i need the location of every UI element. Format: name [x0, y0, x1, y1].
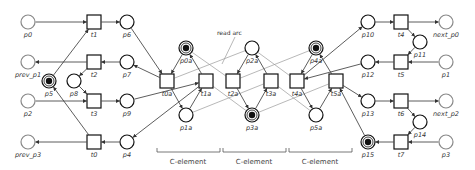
transition-box[interactable] [394, 94, 408, 108]
place-p1a[interactable]: p1a [179, 108, 193, 132]
transition-label: t5a [331, 90, 342, 98]
transition-box[interactable] [290, 74, 304, 88]
transition-box[interactable] [87, 94, 101, 108]
place-p8[interactable]: p8 [67, 74, 81, 98]
place-p6[interactable]: p6 [120, 15, 134, 39]
place-circle[interactable] [413, 35, 427, 49]
transition-box[interactable] [394, 55, 408, 69]
transition-label: t5 [398, 71, 405, 79]
place-label: p5 [44, 90, 53, 98]
place-prev_p3[interactable]: prev_p3 [14, 135, 41, 159]
transition-box[interactable] [394, 15, 408, 29]
place-p0[interactable]: p0 [21, 15, 35, 39]
place-label: p4 [122, 151, 131, 159]
token-icon [365, 139, 371, 145]
transition-box[interactable] [87, 55, 101, 69]
place-circle[interactable] [361, 94, 375, 108]
transition-box[interactable] [394, 135, 408, 149]
place-circle[interactable] [439, 55, 453, 69]
transition-t5[interactable]: t5 [394, 55, 408, 79]
transition-box[interactable] [87, 135, 101, 149]
place-circle[interactable] [439, 94, 453, 108]
place-p5[interactable]: p5 [42, 74, 56, 98]
place-next_p0[interactable]: next_p0 [433, 15, 459, 39]
place-next_p2[interactable]: next_p2 [433, 94, 459, 118]
place-prev_p1[interactable]: prev_p1 [14, 55, 41, 79]
place-p4[interactable]: p4 [120, 135, 134, 159]
place-circle[interactable] [21, 15, 35, 29]
place-circle[interactable] [21, 135, 35, 149]
place-label: p3 [441, 151, 450, 159]
transition-t4[interactable]: t4 [394, 15, 408, 39]
transition-t6[interactable]: t6 [394, 94, 408, 118]
transition-label: t0a [162, 90, 173, 98]
place-circle[interactable] [21, 94, 35, 108]
place-circle[interactable] [120, 55, 134, 69]
place-circle[interactable] [361, 55, 375, 69]
transition-t3a[interactable]: t3a [264, 74, 278, 98]
place-p4a[interactable]: p4a [309, 41, 323, 65]
place-p10[interactable]: p10 [361, 15, 375, 39]
transition-label: t0 [91, 151, 98, 159]
transition-label: t3a [266, 90, 277, 98]
transition-t0a[interactable]: t0a [160, 74, 174, 98]
place-p14[interactable]: p14 [413, 115, 427, 139]
read-arc-p0a-t2a [192, 52, 225, 75]
place-label: p6 [122, 31, 131, 39]
transition-t1a[interactable]: t1a [199, 74, 213, 98]
place-circle[interactable] [245, 41, 259, 55]
place-p9[interactable]: p9 [120, 94, 134, 118]
transition-t7[interactable]: t7 [394, 135, 408, 159]
transition-label: t7 [398, 151, 406, 159]
place-p12[interactable]: p12 [361, 55, 375, 79]
transition-box[interactable] [329, 74, 343, 88]
place-circle[interactable] [21, 55, 35, 69]
transition-label: t2 [91, 71, 98, 79]
transition-t1[interactable]: t1 [87, 15, 101, 39]
c-element-bracket-1 [157, 148, 220, 152]
place-p1[interactable]: p1 [439, 55, 453, 79]
c-element-label-3: C-element [302, 158, 339, 166]
place-circle[interactable] [439, 15, 453, 29]
place-circle[interactable] [120, 94, 134, 108]
place-circle[interactable] [361, 15, 375, 29]
transition-t0[interactable]: t0 [87, 135, 101, 159]
place-p3a[interactable]: p3a [245, 108, 259, 132]
place-p13[interactable]: p13 [361, 94, 375, 118]
transition-box[interactable] [160, 74, 174, 88]
place-p15[interactable]: p15 [361, 135, 375, 159]
transition-label: t4a [292, 90, 303, 98]
place-label: p2 [23, 110, 32, 118]
transition-box[interactable] [264, 74, 278, 88]
transition-t2a[interactable]: t2a [226, 74, 240, 98]
place-p3[interactable]: p3 [439, 135, 453, 159]
place-circle[interactable] [67, 74, 81, 88]
place-p11[interactable]: p11 [413, 35, 427, 59]
place-p2[interactable]: p2 [21, 94, 35, 118]
place-circle[interactable] [120, 15, 134, 29]
c-element-label-1: C-element [170, 158, 207, 166]
place-label: p9 [122, 110, 131, 118]
place-circle[interactable] [439, 135, 453, 149]
place-p2a[interactable]: p2a [245, 41, 259, 65]
token-icon [313, 45, 319, 51]
arc-t6-p14 [408, 108, 415, 116]
transition-box[interactable] [226, 74, 240, 88]
transition-t2[interactable]: t2 [87, 55, 101, 79]
transition-t3[interactable]: t3 [87, 94, 101, 118]
place-p5a[interactable]: p5a [309, 108, 323, 132]
transition-label: t1 [91, 31, 98, 39]
place-label: p2a [245, 57, 258, 65]
place-p0a[interactable]: p0a [179, 41, 193, 65]
transition-t5a[interactable]: t5a [329, 74, 343, 98]
transition-box[interactable] [199, 74, 213, 88]
place-circle[interactable] [413, 115, 427, 129]
place-circle[interactable] [309, 108, 323, 122]
petri-net-diagram: p0prev_p1p2prev_p3p5p8p6p7p9p4p0ap1ap2ap… [0, 0, 475, 170]
transition-box[interactable] [87, 15, 101, 29]
transition-t4a[interactable]: t4a [290, 74, 304, 98]
transition-label: t4 [398, 31, 405, 39]
place-p7[interactable]: p7 [120, 55, 134, 79]
place-circle[interactable] [179, 108, 193, 122]
place-circle[interactable] [120, 135, 134, 149]
